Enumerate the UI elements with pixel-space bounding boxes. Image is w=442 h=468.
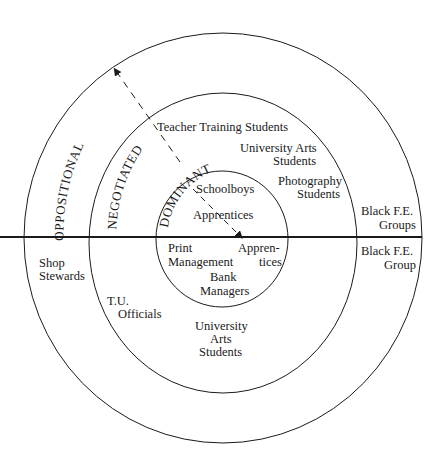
label-bank-managers-2: Managers — [200, 284, 249, 298]
label-teacher-training-students: Teacher Training Students — [157, 120, 288, 134]
label-university-arts-lower-3: Students — [199, 345, 242, 359]
label-university-arts-lower-1: University — [195, 319, 249, 333]
label-university-arts-upper-1: University Arts — [240, 141, 317, 155]
ring-label-negotiated: NEGOTIATED — [104, 142, 145, 230]
label-black-fe-group-2: Group — [384, 258, 416, 272]
ring-label-oppositional: OPPOSITIONAL — [51, 139, 86, 240]
label-university-arts-lower-2: Arts — [210, 332, 232, 346]
label-tu-officials-1: T.U. — [107, 294, 129, 308]
label-black-fe-groups-1: Black F.E. — [361, 204, 413, 218]
label-shop-stewards-2: Stewards — [39, 269, 85, 283]
label-apprentices-lower-1: Appren- — [238, 241, 280, 255]
label-photography-1: Photography — [278, 174, 343, 188]
label-university-arts-upper-2: Students — [273, 154, 316, 168]
label-black-fe-group-1: Black F.E. — [361, 244, 413, 258]
label-black-fe-groups-2: Groups — [379, 218, 416, 232]
label-tu-officials-2: Officials — [118, 307, 162, 321]
decoding-positions-diagram: OPPOSITIONAL NEGOTIATED DOMINANT Schoolb… — [0, 0, 442, 468]
label-photography-2: Students — [297, 187, 340, 201]
label-bank-managers-1: Bank — [210, 270, 237, 284]
label-print-2: Management — [168, 255, 234, 269]
label-apprentices-lower-2: tices — [259, 255, 282, 269]
label-schoolboys: Schoolboys — [196, 182, 254, 196]
label-apprentices-upper: Apprentices — [193, 208, 254, 222]
label-shop-stewards-1: Shop — [39, 256, 65, 270]
label-print-1: Print — [168, 241, 193, 255]
outer-circle-oppositional — [24, 33, 422, 443]
dashed-arrow-oppositional — [116, 71, 180, 162]
